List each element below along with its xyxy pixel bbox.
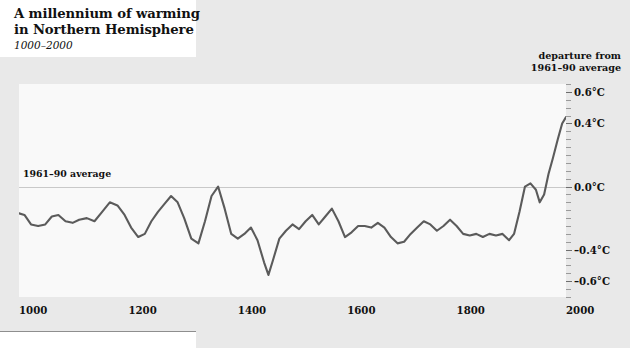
y-axis-tick — [566, 289, 571, 290]
temperature-anomaly-line — [19, 84, 566, 297]
x-axis-label-2: 1400 — [238, 304, 266, 316]
y-axis-caption-line1: departure from — [531, 50, 621, 62]
y-axis-tick — [566, 116, 571, 117]
y-axis-tick — [566, 92, 572, 93]
y-axis-tick — [566, 210, 571, 211]
y-axis-label-0: 0.6°C — [574, 86, 605, 98]
y-axis-tick — [566, 250, 572, 251]
y-axis-tick — [566, 139, 571, 140]
y-axis-tick — [566, 147, 571, 148]
x-axis-label-1: 1200 — [128, 304, 156, 316]
plot-area: 1961–90 average — [19, 84, 566, 297]
y-axis-tick — [566, 265, 571, 266]
y-axis-tick — [566, 179, 571, 180]
y-axis-tick — [566, 163, 571, 164]
y-axis-tick — [566, 100, 571, 101]
y-axis-tick — [566, 171, 571, 172]
y-axis-tick — [566, 187, 572, 188]
y-axis-tick — [566, 84, 571, 85]
y-axis-tick — [566, 108, 571, 109]
y-axis-tick — [566, 155, 571, 156]
y-axis-caption-line2: 1961–90 average — [531, 62, 621, 74]
y-axis-tick — [566, 202, 571, 203]
y-axis-tick — [566, 273, 571, 274]
title-panel: A millennium of warming in Northern Hemi… — [0, 0, 196, 57]
y-axis-caption: departure from 1961–90 average — [531, 50, 621, 73]
y-axis-tick — [566, 218, 571, 219]
y-axis-label-1: 0.4°C — [574, 117, 605, 129]
y-axis-tick — [566, 226, 571, 227]
x-axis-label-4: 1800 — [457, 304, 485, 316]
y-axis-tick — [566, 281, 572, 282]
x-axis-label-5: 2000 — [566, 304, 594, 316]
y-axis-tick — [566, 258, 571, 259]
y-axis-tick — [566, 194, 571, 195]
y-axis-label-3: –0.4°C — [574, 244, 610, 256]
y-axis-tick — [566, 234, 571, 235]
y-axis-label-4: –0.6°C — [574, 275, 610, 287]
y-axis-ticks — [566, 84, 571, 297]
x-axis-label-0: 1000 — [19, 304, 47, 316]
chart-figure: A millennium of warming in Northern Hemi… — [0, 0, 630, 348]
y-axis-tick — [566, 131, 571, 132]
bottom-caption-strip — [0, 331, 196, 348]
y-axis-label-2: 0.0°C — [574, 181, 605, 193]
y-axis-tick — [566, 297, 571, 298]
x-axis-label-3: 1600 — [347, 304, 375, 316]
y-axis-tick — [566, 123, 572, 124]
page-title-line2: in Northern Hemisphere — [14, 22, 194, 37]
page-title-line1: A millennium of warming — [14, 6, 200, 21]
page-subtitle: 1000–2000 — [14, 39, 73, 51]
y-axis-tick — [566, 242, 571, 243]
